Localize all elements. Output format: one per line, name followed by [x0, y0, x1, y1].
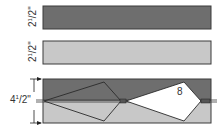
label-frac-den: 2"	[22, 94, 31, 105]
dark-strip	[43, 6, 211, 29]
strip-2-width-label: 21/2"	[27, 41, 38, 62]
tip-marker-right	[201, 99, 210, 103]
tip-marker-left	[120, 99, 126, 103]
strip-1-width-label: 21/2"	[27, 6, 38, 27]
label-frac-num: 1	[27, 53, 33, 56]
arrow-bottom-icon	[37, 121, 42, 125]
sewn-unit-height-label: 41/2"	[10, 94, 31, 105]
light-strip	[43, 41, 211, 64]
label-whole: 2	[27, 22, 38, 28]
label-frac-num: 1	[16, 94, 19, 100]
label-frac-num: 1	[27, 18, 33, 21]
shape-number-label: 8	[177, 86, 183, 97]
label-frac-den: 2"	[27, 41, 38, 50]
arrow-top-icon	[37, 77, 42, 81]
label-frac-den: 2"	[27, 6, 38, 15]
label-whole: 2	[27, 57, 38, 63]
